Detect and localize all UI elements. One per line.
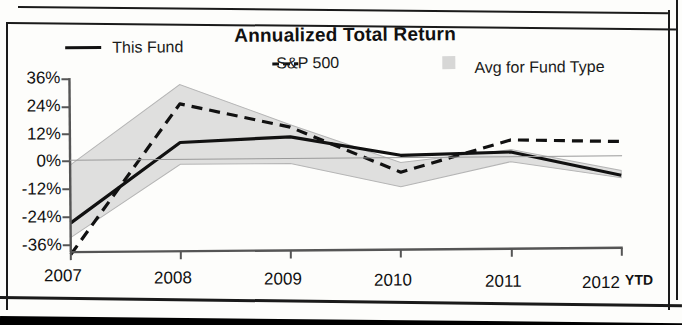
x-axis-line [71, 248, 623, 252]
x-tick-label-2010: 2010 [374, 270, 412, 290]
x-tick-label-2011: 2011 [485, 272, 522, 292]
x-tick-label-2009: 2009 [264, 269, 302, 289]
page-edge-shadow [0, 316, 682, 325]
x-tick-label-2012: 2012 [582, 273, 620, 293]
scanned-page: Annualized Total Return This Fund S&P 50… [0, 0, 682, 325]
y-axis-line [69, 78, 70, 252]
plot-area [0, 0, 682, 303]
x-tick-label-2007: 2007 [44, 266, 82, 286]
annualized-total-return-chart: Annualized Total Return This Fund S&P 50… [0, 0, 682, 303]
x-axis-ytd-suffix: YTD [625, 272, 653, 288]
x-tick-label-2008: 2008 [154, 268, 192, 288]
